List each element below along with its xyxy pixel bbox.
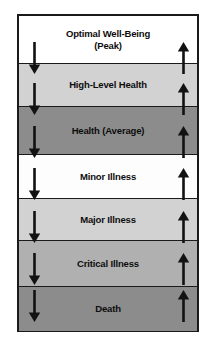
health-illness-continuum-diagram: Optimal Well-Being (Peak)High-Level Heal… — [0, 0, 217, 346]
band-label-health-average: Health (Average) — [72, 125, 145, 137]
band-death: Death — [19, 286, 197, 331]
band-health-average: Health (Average) — [19, 106, 197, 154]
band-label-major-illness: Major Illness — [80, 214, 136, 226]
band-high-level-health: High-Level Health — [19, 63, 197, 106]
band-label-minor-illness: Minor Illness — [80, 171, 136, 183]
band-minor-illness: Minor Illness — [19, 154, 197, 198]
band-major-illness: Major Illness — [19, 198, 197, 240]
band-label-death: Death — [95, 303, 121, 315]
continuum-frame: Optimal Well-Being (Peak)High-Level Heal… — [17, 14, 199, 332]
band-optimal-well-being: Optimal Well-Being (Peak) — [19, 16, 197, 63]
band-label-critical-illness: Critical Illness — [77, 258, 139, 270]
band-critical-illness: Critical Illness — [19, 240, 197, 286]
band-label-optimal-well-being: Optimal Well-Being (Peak) — [66, 28, 150, 52]
band-label-high-level-health: High-Level Health — [69, 79, 147, 91]
